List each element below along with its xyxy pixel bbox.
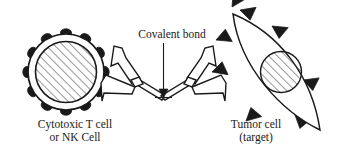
covalent-bond-pointer bbox=[155, 43, 172, 98]
tumor-cell-label-line2: (target) bbox=[196, 131, 316, 144]
cytotoxic-t-cell-label-line1: Cytotoxic T cell bbox=[0, 118, 150, 131]
antibody-right bbox=[161, 46, 226, 101]
cytotoxic-t-cell bbox=[23, 29, 109, 115]
tumor-antigen bbox=[272, 25, 289, 39]
antibody-left bbox=[101, 46, 166, 101]
tumor-cell-label: Tumor cell (target) bbox=[196, 118, 316, 144]
tumor-antigen bbox=[228, 0, 247, 7]
covalent-bond-label: Covalent bond bbox=[116, 28, 228, 41]
cytotoxic-t-cell-label-line2: or NK Cell bbox=[0, 131, 150, 144]
covalent-bond-label-text: Covalent bond bbox=[116, 28, 228, 41]
tumor-cell-label-line1: Tumor cell bbox=[196, 118, 316, 131]
tumor-cell bbox=[212, 0, 322, 130]
cytotoxic-t-cell-label: Cytotoxic T cell or NK Cell bbox=[0, 118, 150, 144]
